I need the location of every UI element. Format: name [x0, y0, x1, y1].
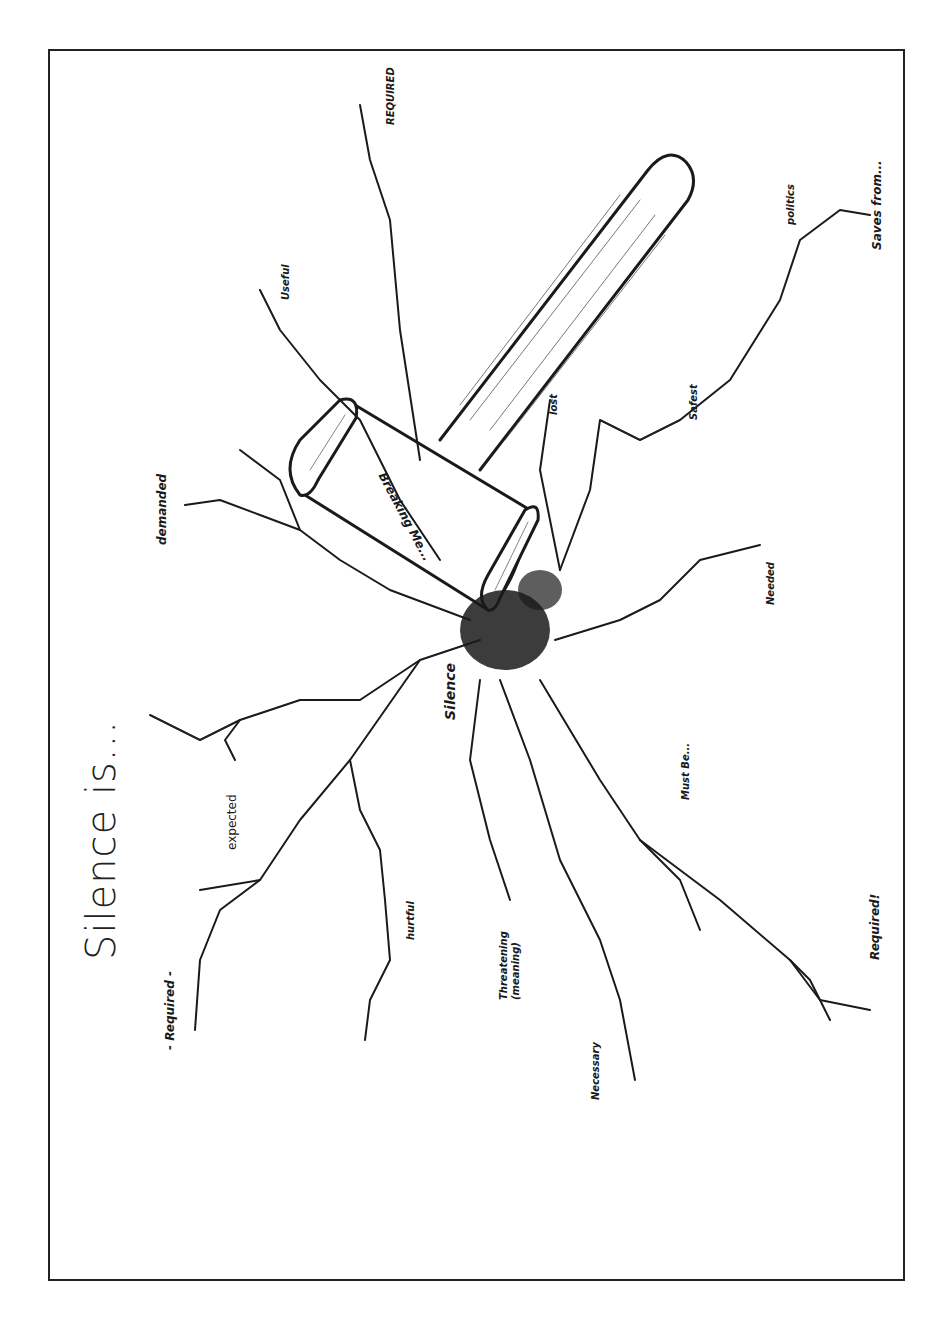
- label-required-exclaim: Required!: [868, 894, 882, 960]
- sketch-drawing: [0, 0, 946, 1324]
- label-safest: Safest: [688, 384, 699, 420]
- label-necessary: Necessary: [590, 1042, 601, 1100]
- label-expected: expected: [225, 794, 239, 850]
- label-required-caps: REQUIRED: [385, 67, 396, 125]
- label-lost: lost: [548, 394, 559, 415]
- label-useful: Useful: [280, 264, 291, 300]
- label-politics: politics: [785, 184, 796, 225]
- label-demanded: demanded: [155, 474, 169, 545]
- mallet-head-icon: [290, 399, 538, 610]
- center-label: Silence: [442, 663, 458, 720]
- label-threatening: Threatening (meaning): [498, 930, 522, 1000]
- label-hurtful: hurtful: [405, 901, 416, 940]
- label-needed: Needed: [765, 562, 776, 605]
- mallet-handle-icon: [440, 155, 694, 470]
- label-must-be: Must Be...: [680, 743, 691, 800]
- label-saves-from: Saves from...: [870, 160, 884, 250]
- label-required-top-left: - Required -: [163, 971, 177, 1050]
- title: Silence is...: [78, 720, 124, 960]
